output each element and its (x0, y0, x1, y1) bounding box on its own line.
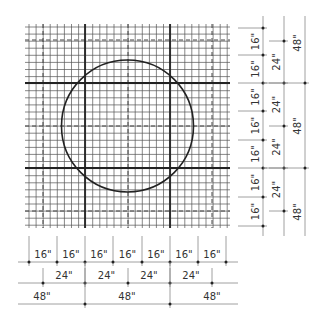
dimension-label: 48" (292, 34, 303, 51)
dimension-dot (262, 110, 265, 113)
dimension-label: 16" (119, 249, 136, 260)
dimension-label: 24" (271, 53, 282, 70)
dimension-label: 16" (250, 203, 261, 220)
dimension-dot (28, 261, 31, 264)
grid-dimension-diagram: 16"16"16"16"16"16"16"24"24"24"24"48"48"4… (0, 0, 319, 324)
dimension-dot (262, 27, 265, 30)
dimension-dot (304, 167, 307, 170)
dimension-label: 16" (147, 249, 164, 260)
dimension-dot (262, 139, 265, 142)
dimension-dot (283, 210, 286, 213)
dimension-label: 24" (55, 270, 72, 281)
dimension-dot (283, 40, 286, 43)
dimension-label: 16" (175, 249, 192, 260)
dimension-dot (262, 54, 265, 57)
bottom-dimension-strings: 16"16"16"16"16"16"16"24"24"24"24"48"48"4… (18, 236, 238, 308)
dimension-label: 48" (33, 291, 50, 302)
dimension-label: 16" (34, 249, 51, 260)
dimension-dot (197, 261, 200, 264)
dimension-dot (112, 261, 115, 264)
dimension-label: 16" (203, 249, 220, 260)
dimension-label: 48" (292, 117, 303, 134)
dimension-label: 48" (118, 291, 135, 302)
dimension-dot (262, 196, 265, 199)
dimension-label: 24" (271, 181, 282, 198)
dimension-dot (283, 125, 286, 128)
dimension-dot (127, 282, 130, 285)
dimension-label: 24" (182, 270, 199, 281)
right-dimension-strings: 16"16"16"16"16"16"16"24"24"24"24"48"48"4… (238, 16, 309, 236)
dimension-dot (42, 282, 45, 285)
dimension-label: 24" (140, 270, 157, 281)
dimension-dot (141, 261, 144, 264)
dimension-dot (56, 261, 59, 264)
dimension-label: 48" (203, 291, 220, 302)
dimension-label: 16" (250, 33, 261, 50)
dimension-label: 16" (250, 88, 261, 105)
dimension-label: 48" (292, 203, 303, 220)
dimension-label: 16" (250, 174, 261, 191)
dimension-dot (225, 261, 228, 264)
dimension-label: 16" (250, 145, 261, 162)
dimension-dot (84, 303, 87, 306)
dimension-label: 24" (98, 270, 115, 281)
dimension-dot (304, 82, 307, 85)
dimension-dot (262, 225, 265, 228)
dimension-dot (169, 303, 172, 306)
dimension-label: 16" (90, 249, 107, 260)
dimension-label: 24" (271, 96, 282, 113)
dimension-label: 16" (62, 249, 79, 260)
dimension-label: 16" (250, 117, 261, 134)
dimension-dot (211, 282, 214, 285)
dimension-label: 24" (271, 138, 282, 155)
dimension-label: 16" (250, 60, 261, 77)
